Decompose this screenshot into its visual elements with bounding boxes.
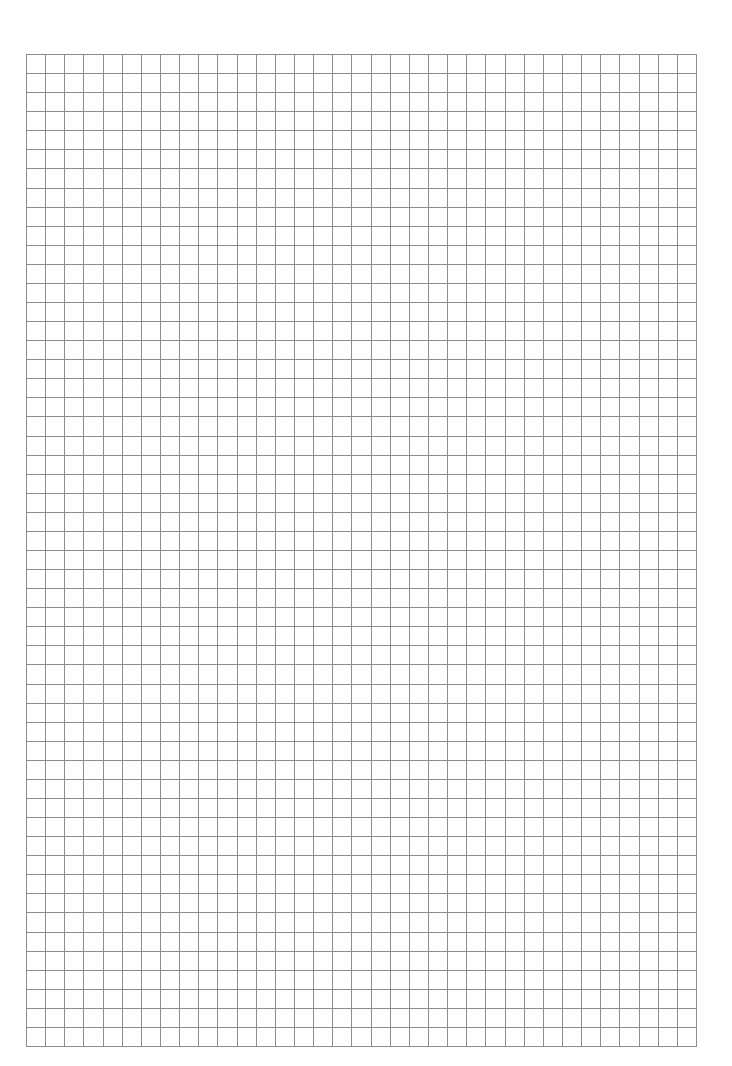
horizontal-grid-lines (26, 55, 697, 1047)
grid (0, 0, 732, 1066)
graph-paper-page (0, 0, 732, 1066)
